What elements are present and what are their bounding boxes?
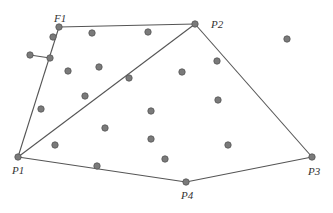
vertex-label-p2: P2 (210, 18, 224, 30)
point (102, 125, 108, 131)
vertex-label-p4: P4 (180, 189, 194, 201)
point (284, 36, 290, 42)
point (96, 64, 102, 70)
point (148, 108, 154, 114)
point (162, 156, 168, 162)
edge-line (195, 24, 312, 157)
edge-line (186, 157, 312, 182)
edge-line (18, 24, 195, 157)
point (126, 75, 132, 81)
vertex-labels: F1P2P3P4P1 (11, 12, 321, 201)
hull-diagram: F1P2P3P4P1 (0, 0, 333, 213)
vertex-label-p1: P1 (11, 164, 24, 176)
hull-vertex-p1 (15, 154, 21, 160)
point (65, 68, 71, 74)
point (214, 58, 220, 64)
point (47, 55, 53, 61)
edge-line (18, 27, 59, 157)
point (27, 52, 33, 58)
hull-vertex-p4 (183, 179, 189, 185)
point (179, 69, 185, 75)
point (50, 34, 56, 40)
point (225, 142, 231, 148)
hull-vertex-p2 (192, 21, 198, 27)
point (145, 29, 151, 35)
edge-line (59, 24, 195, 27)
interior-points (27, 29, 290, 169)
hull-vertex-f1 (56, 24, 62, 30)
point (89, 30, 95, 36)
point (52, 142, 58, 148)
point (215, 97, 221, 103)
point (94, 163, 100, 169)
point (148, 136, 154, 142)
vertex-label-f1: F1 (53, 12, 66, 24)
point (38, 106, 44, 112)
point (82, 93, 88, 99)
vertex-label-p3: P3 (307, 165, 321, 177)
edge-line (18, 157, 186, 182)
hull-vertex-p3 (309, 154, 315, 160)
